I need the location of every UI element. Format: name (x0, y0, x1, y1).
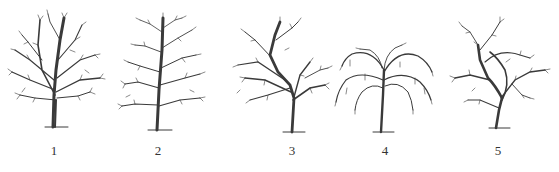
tree-3-drawing (233, 17, 332, 132)
tree-label-5: 5 (488, 143, 508, 159)
tree-drawings (0, 0, 559, 140)
tree-label-4: 4 (375, 143, 395, 159)
tree-label-3: 3 (282, 143, 302, 159)
tree-forms-figure: 1 2 3 4 5 (0, 0, 559, 172)
tree-label-1: 1 (44, 143, 64, 159)
tree-label-2: 2 (148, 143, 168, 159)
tree-1-drawing (8, 10, 105, 127)
tree-4-drawing (335, 43, 433, 132)
tree-5-drawing (450, 17, 550, 128)
tree-2-drawing (118, 13, 205, 130)
